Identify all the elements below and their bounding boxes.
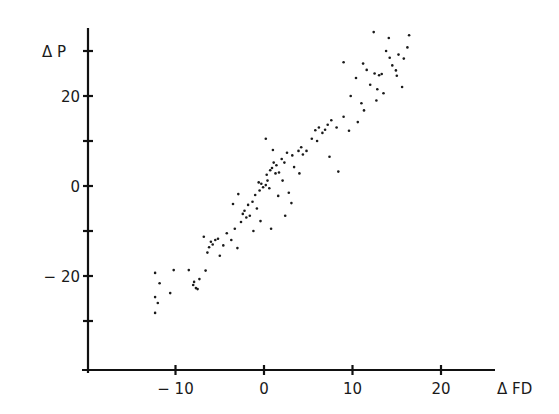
data-point: [397, 53, 400, 56]
data-point: [237, 193, 240, 196]
y-tick-label: 20: [61, 88, 80, 106]
data-point: [342, 115, 345, 118]
data-point: [188, 269, 191, 272]
data-point: [222, 244, 225, 247]
data-point: [265, 174, 268, 177]
data-point: [242, 213, 245, 216]
data-point: [272, 149, 275, 152]
data-point: [298, 172, 301, 175]
data-point: [288, 192, 291, 195]
data-point: [154, 272, 157, 275]
data-point: [388, 57, 391, 60]
data-point: [214, 239, 217, 242]
data-point: [236, 247, 239, 250]
data-point: [291, 154, 294, 157]
data-point: [158, 282, 161, 285]
data-point: [281, 179, 284, 182]
data-point: [403, 57, 406, 60]
data-point: [380, 73, 383, 76]
data-point: [234, 228, 237, 231]
data-point: [316, 140, 319, 143]
data-points: [154, 31, 411, 314]
data-point: [193, 281, 196, 284]
data-point: [328, 156, 331, 159]
data-point: [266, 179, 269, 182]
data-point: [314, 129, 317, 132]
data-point: [335, 126, 338, 129]
data-point: [373, 72, 376, 75]
data-point: [230, 239, 233, 242]
data-point: [251, 201, 254, 204]
data-point: [391, 64, 394, 67]
data-point: [305, 150, 308, 153]
data-point: [385, 50, 388, 53]
x-axis-title: Δ FD: [497, 380, 532, 398]
data-point: [401, 86, 404, 89]
data-point: [284, 214, 287, 217]
data-point: [196, 288, 199, 291]
data-point: [376, 88, 379, 91]
data-point: [382, 92, 385, 95]
data-point: [406, 46, 409, 49]
data-point: [269, 169, 272, 172]
data-point: [297, 150, 300, 153]
data-point: [247, 204, 250, 207]
data-point: [172, 269, 175, 272]
data-point: [357, 121, 360, 124]
data-point: [372, 31, 375, 34]
data-point: [252, 230, 255, 233]
data-point: [395, 69, 398, 72]
data-point: [311, 138, 314, 141]
data-point: [408, 34, 411, 37]
data-point: [275, 164, 278, 167]
data-point: [290, 202, 293, 205]
data-point: [302, 153, 305, 156]
data-point: [259, 220, 262, 223]
axis-labels: 200− 20− 1001020Δ PΔ FD: [42, 43, 532, 398]
data-point: [278, 171, 281, 174]
data-point: [349, 95, 352, 98]
data-point: [265, 138, 268, 141]
data-point: [378, 74, 381, 77]
data-point: [268, 187, 271, 190]
data-point: [219, 255, 222, 258]
data-point: [206, 251, 209, 254]
data-point: [277, 195, 280, 198]
data-point: [245, 216, 248, 219]
data-point: [258, 189, 261, 192]
data-point: [355, 77, 358, 80]
data-point: [262, 186, 265, 189]
data-point: [283, 161, 286, 164]
data-point: [324, 129, 327, 132]
data-point: [243, 210, 246, 213]
data-point: [318, 126, 321, 129]
data-point: [240, 221, 243, 224]
y-tick-label: 0: [70, 178, 80, 196]
data-point: [365, 69, 368, 72]
data-point: [337, 170, 340, 173]
data-point: [272, 161, 275, 164]
x-tick-label: 10: [343, 380, 362, 398]
data-point: [293, 166, 296, 169]
x-tick-label: 20: [431, 380, 450, 398]
data-point: [274, 172, 277, 175]
data-point: [254, 194, 257, 197]
data-point: [270, 228, 273, 231]
scatter-chart: 200− 20− 1001020Δ PΔ FD: [0, 0, 559, 414]
data-point: [208, 246, 211, 249]
data-point: [396, 75, 399, 78]
x-tick-label: 0: [259, 380, 269, 398]
data-point: [363, 109, 366, 112]
data-point: [326, 124, 329, 127]
data-point: [342, 61, 345, 64]
data-point: [154, 312, 157, 315]
data-point: [260, 183, 263, 186]
y-tick-label: − 20: [44, 268, 80, 286]
data-point: [198, 278, 201, 281]
data-point: [211, 243, 214, 246]
x-tick-label: − 10: [157, 380, 193, 398]
data-point: [249, 214, 252, 217]
data-point: [256, 207, 259, 210]
data-point: [330, 119, 333, 122]
data-point: [362, 62, 365, 65]
